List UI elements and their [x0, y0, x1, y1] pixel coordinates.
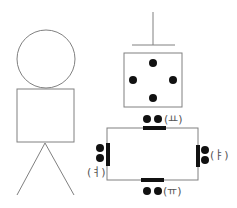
left-label: (ㅕ) [87, 166, 106, 179]
left-dot-1 [96, 144, 104, 152]
left-bar [106, 143, 110, 166]
braille-frame: (ㅛ) (ㅑ) (ㅠ) (ㅕ) [87, 113, 229, 198]
top-bar [143, 126, 166, 130]
bottom-bar [141, 178, 164, 182]
dice-dot-right [169, 76, 177, 84]
top-dot-2 [154, 115, 162, 123]
dice-dot-top [149, 59, 157, 67]
dice-group [124, 12, 182, 107]
right-dot-2 [201, 156, 209, 164]
bottom-label: (ㅠ) [163, 185, 182, 198]
figure-left-leg [17, 143, 45, 195]
frame-rect [107, 128, 198, 180]
top-label: (ㅛ) [164, 113, 183, 126]
right-label: (ㅑ) [210, 149, 229, 162]
dice-dot-left [129, 76, 137, 84]
diagram-canvas: (ㅛ) (ㅑ) (ㅠ) (ㅕ) [0, 0, 237, 208]
bottom-dot-2 [154, 187, 162, 195]
top-dot-1 [143, 115, 151, 123]
right-bar [196, 145, 200, 167]
figure-right-leg [45, 143, 74, 195]
stick-figure [17, 30, 75, 195]
figure-head [17, 30, 75, 88]
dice-dot-bottom [149, 94, 157, 102]
left-dot-2 [96, 154, 104, 162]
right-dot-1 [201, 146, 209, 154]
figure-body [17, 89, 74, 142]
bottom-dot-1 [143, 187, 151, 195]
